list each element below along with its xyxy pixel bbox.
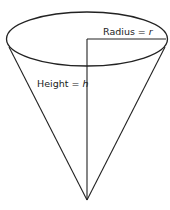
- radius-label: Radius = r: [103, 26, 154, 37]
- cone-left-side: [9, 47, 87, 200]
- cone-diagram: Radius = r Height = h: [0, 0, 170, 210]
- height-label: Height = h: [37, 78, 88, 89]
- cone-right-side: [87, 47, 165, 200]
